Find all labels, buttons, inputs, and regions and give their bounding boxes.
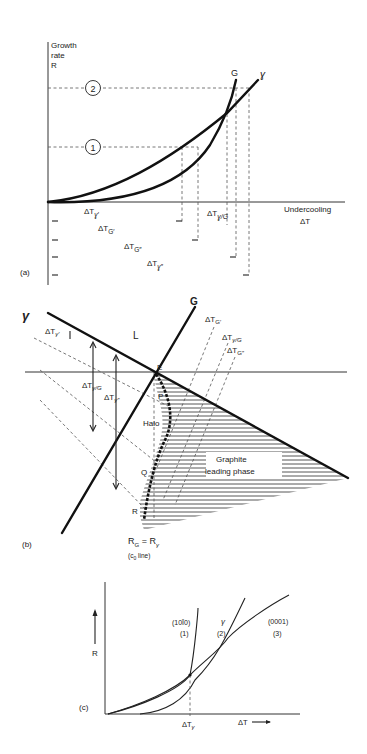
a-dt-g-dprime: ΔTG″ xyxy=(124,242,142,253)
b-dt-gamma-g: ΔTγ/G xyxy=(82,381,102,391)
a-dt-gamma-g: ΔTɣ/G xyxy=(207,209,229,221)
point-r: R xyxy=(132,507,138,516)
c-curve-1-label-2: (1) xyxy=(180,630,189,638)
b-equation: RG = Rγ xyxy=(128,536,160,548)
a-curve-g-label: G xyxy=(231,68,238,78)
c-curve-3 xyxy=(108,595,289,714)
a-x-label-1: Undercooling xyxy=(284,205,331,214)
a-curve-gamma xyxy=(48,80,258,202)
point-p: P xyxy=(158,392,163,401)
b-graphite-label: G xyxy=(190,296,198,307)
c-x-label: ΔT xyxy=(238,718,248,727)
c-intersection xyxy=(188,673,191,676)
marker-1-label: 1 xyxy=(90,143,95,153)
c-curve-3-label-2: (3) xyxy=(273,630,282,638)
b-dt-gamma-prime: ΔTγ′ xyxy=(45,327,60,337)
b-dt-g-dprime: ΔTG″ xyxy=(227,346,245,356)
point-q: Q xyxy=(141,468,147,477)
a-dt-g-prime: ΔTG′ xyxy=(98,224,115,235)
a-y-label-2: rate xyxy=(51,51,65,60)
figure: Growth rate R Undercooling ΔT 2 1 G ɣ xyxy=(0,0,367,754)
c-curve-1-label-1: (10Ī0) xyxy=(172,619,190,627)
a-y-label-1: Growth xyxy=(51,41,77,50)
b-liquid-label: L xyxy=(133,330,139,341)
panel-b: γ G L E P Q R Halo Graphite leading phas… xyxy=(22,296,350,561)
a-dt-gamma-prime: ΔTɣ′ xyxy=(84,207,99,219)
a-curve-graphite xyxy=(48,80,236,202)
a-x-label-2: ΔT xyxy=(300,217,310,226)
b-gamma-label: γ xyxy=(22,308,30,323)
b-graphite-region-1: Graphite xyxy=(216,455,247,464)
c-curve-2-label-1: γ xyxy=(221,617,226,626)
b-dashed-lines xyxy=(34,327,235,520)
panel-c: R (10Ī0) (1) γ (2) (0001) (3) ΔTγ ΔT (c) xyxy=(79,582,300,730)
point-e: E xyxy=(157,363,162,372)
c-curve-3-label-1: (0001) xyxy=(268,618,288,626)
panel-a: Growth rate R Undercooling ΔT 2 1 G ɣ xyxy=(20,41,345,285)
b-equation-note: (c0 line) xyxy=(128,552,150,561)
b-graphite-region-2: leading phase xyxy=(205,467,255,476)
a-curve-gamma-label: ɣ xyxy=(260,69,266,80)
b-dt-g-prime: ΔTG′ xyxy=(205,315,222,325)
b-dt-gamma-dprime: ΔTγ″ xyxy=(104,393,120,403)
a-dt-gamma-dprime: ΔTɣ″ xyxy=(147,259,163,271)
b-dt-gamma-g-right: ΔTγ/G xyxy=(222,333,242,343)
c-x-arrowhead xyxy=(266,720,271,724)
c-y-label: R xyxy=(92,649,98,658)
panel-c-label: (c) xyxy=(79,703,89,712)
b-vertical-arrows xyxy=(70,331,119,489)
c-curve-2-label-2: (2) xyxy=(217,630,226,638)
a-y-label-3: R xyxy=(51,61,57,70)
b-halo-label: Halo xyxy=(143,419,160,428)
panel-b-label: (b) xyxy=(22,540,32,549)
c-dt-gamma: ΔTγ xyxy=(182,720,196,730)
c-r-arrowhead xyxy=(93,609,98,616)
panel-a-label: (a) xyxy=(20,268,30,277)
marker-2-label: 2 xyxy=(90,84,95,94)
